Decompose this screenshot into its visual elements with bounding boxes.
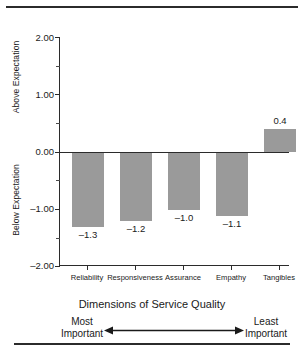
x-tick-mark-empathy bbox=[231, 265, 232, 270]
y-minor-tick-0-5 bbox=[56, 123, 60, 124]
most-important-line2: Important bbox=[54, 328, 110, 340]
x-axis-spine bbox=[59, 265, 289, 266]
x-tick-mark-assurance bbox=[183, 265, 184, 270]
most-important-line1: Most bbox=[54, 316, 110, 328]
y-tick-label-1: 1.00 bbox=[8, 90, 54, 100]
y-tick-label-0: 0.00 bbox=[8, 147, 54, 157]
x-tick-mark-reliability bbox=[87, 265, 88, 270]
least-important-line1: Least bbox=[238, 316, 294, 328]
bar-value-reliability: –1.3 bbox=[64, 229, 112, 240]
plot-area: –1.3 –1.2 –1.0 –1.1 0.4 Reliability Resp… bbox=[59, 10, 297, 340]
bar-value-assurance: –1.0 bbox=[160, 212, 208, 223]
x-tick-mark-responsiveness bbox=[135, 265, 136, 270]
importance-arrow-icon bbox=[104, 323, 244, 336]
bar-value-responsiveness: –1.2 bbox=[112, 223, 160, 234]
bar-chart-figure: Above Expectation Below Expectation 2.00… bbox=[0, 10, 304, 340]
bar-tangibles bbox=[264, 129, 296, 152]
least-important-annotation: Least Important bbox=[238, 316, 294, 339]
y-minor-tick-1-5 bbox=[56, 66, 60, 67]
x-tick-mark-tangibles bbox=[279, 265, 280, 270]
bar-value-tangibles: 0.4 bbox=[256, 115, 304, 126]
y-tick-label-neg2: –2.00 bbox=[8, 261, 54, 271]
y-tick-mark-1 bbox=[55, 94, 60, 95]
y-tick-mark-neg1 bbox=[55, 209, 60, 210]
y-tick-mark-neg2 bbox=[55, 266, 60, 267]
x-category-label-tangibles: Tangibles bbox=[255, 273, 303, 282]
y-tick-mark-0 bbox=[55, 152, 60, 153]
bottom-divider-rule bbox=[14, 343, 290, 345]
y-tick-label-2: 2.00 bbox=[8, 33, 54, 43]
top-divider-rule bbox=[6, 6, 298, 8]
bar-assurance bbox=[168, 153, 200, 210]
y-tick-label-neg1: –1.00 bbox=[8, 204, 54, 214]
bar-value-empathy: –1.1 bbox=[208, 218, 256, 229]
x-category-label-empathy: Empathy bbox=[209, 273, 253, 282]
x-axis-title: Dimensions of Service Quality bbox=[0, 298, 304, 310]
bar-reliability bbox=[72, 153, 104, 227]
y-tick-mark-2 bbox=[55, 37, 60, 38]
y-minor-tick-neg0-5 bbox=[56, 180, 60, 181]
most-important-annotation: Most Important bbox=[54, 316, 110, 339]
y-axis-tick-labels: 2.00 1.00 0.00 –1.00 –2.00 bbox=[6, 10, 54, 340]
y-minor-tick-neg1-5 bbox=[56, 238, 60, 239]
least-important-line2: Important bbox=[238, 328, 294, 340]
x-category-label-assurance: Assurance bbox=[159, 273, 207, 282]
bar-empathy bbox=[216, 153, 248, 216]
bar-responsiveness bbox=[120, 153, 152, 221]
